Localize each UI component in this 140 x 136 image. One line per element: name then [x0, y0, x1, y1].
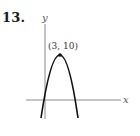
vertex-point [58, 53, 62, 57]
x-axis-label: x [123, 94, 129, 105]
y-axis-label: y [41, 12, 48, 23]
parabola-graph: y x (3, 10) [0, 0, 140, 136]
vertex-label: (3, 10) [48, 41, 78, 51]
parabola-curve [41, 55, 78, 118]
